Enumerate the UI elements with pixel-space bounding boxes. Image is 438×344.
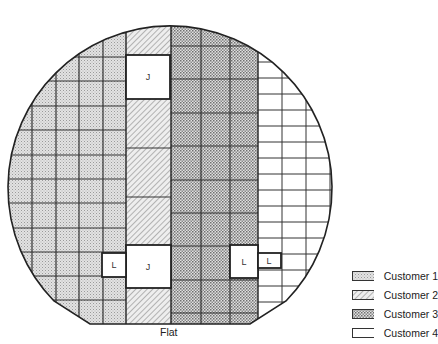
legend-label: Customer 4 [384,327,438,339]
customer2-region [126,0,171,344]
customer3-swatch-icon [352,309,374,319]
legend-label: Customer 1 [384,270,438,282]
j-mark-top: J [146,72,151,82]
customer2-swatch-icon [352,290,374,300]
legend-label: Customer 3 [384,308,438,320]
legend-item-customer-2: Customer 2 [346,285,438,304]
legend-item-customer-4: Customer 4 [346,323,438,342]
customer3-region [171,0,258,344]
legend-label: Customer 2 [384,289,438,301]
l-mark-right-2: L [266,256,271,266]
customer1-swatch-icon [352,271,374,281]
customer4-swatch-icon [352,328,374,338]
legend: Customer 1 Customer 2 Customer 3 Custome… [346,266,438,342]
legend-item-customer-1: Customer 1 [346,266,438,285]
j-mark-bottom: J [146,262,151,272]
l-mark-left: L [111,260,116,270]
customer1-region [0,0,126,344]
l-mark-right-1: L [241,257,246,267]
legend-item-customer-3: Customer 3 [346,304,438,323]
flat-label: Flat [160,326,178,338]
